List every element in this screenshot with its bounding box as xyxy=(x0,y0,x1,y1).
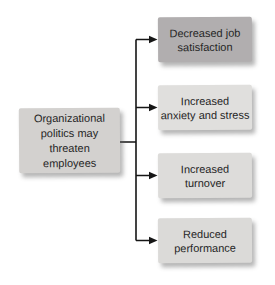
effect-label: Increasedanxiety and stress xyxy=(158,93,252,122)
cause-node: Organizationalpolitics maythreatenemploy… xyxy=(19,108,120,174)
diagram-canvas: Organizationalpolitics maythreatenemploy… xyxy=(0,0,275,285)
arrowhead-icon xyxy=(149,172,158,179)
effect-label: Reducedperformance xyxy=(158,226,252,255)
arrowhead-icon xyxy=(149,104,158,111)
cause-label: Organizationalpolitics maythreatenemploy… xyxy=(19,110,120,171)
effect-node-increased-anxiety-and-stress: Increasedanxiety and stress xyxy=(158,85,252,131)
effect-node-decreased-job-satisfaction: Decreased jobsatisfaction xyxy=(158,17,252,63)
arrowhead-icon xyxy=(149,36,158,43)
connector-path xyxy=(120,40,150,241)
effect-node-increased-turnover: Increasedturnover xyxy=(158,153,252,199)
effect-node-reduced-performance: Reducedperformance xyxy=(158,218,252,264)
effect-label: Increasedturnover xyxy=(158,161,252,190)
arrowhead-icon xyxy=(149,237,158,244)
effect-label: Decreased jobsatisfaction xyxy=(158,25,252,54)
